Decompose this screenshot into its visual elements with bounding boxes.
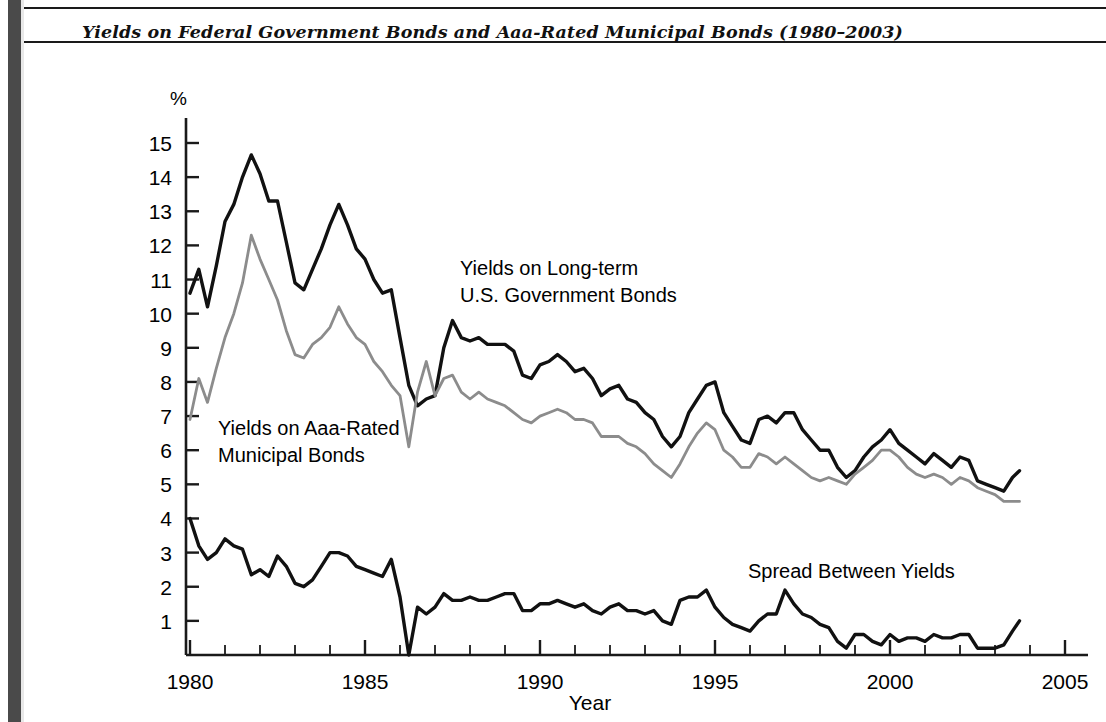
y-tick-label: 14 [149,166,173,189]
series-line-2 [190,519,1020,656]
y-tick-label: 13 [149,200,172,223]
x-axis-label: Year [569,691,611,714]
yields-line-chart: 123456789101112131415 198019851990199520… [0,0,1106,722]
y-tick-label: 5 [160,473,172,496]
spread-annotation-line-0: Spread Between Yields [748,560,955,582]
muni-annotation-line-0: Yields on Aaa-Rated [218,417,400,439]
x-tick-label: 1990 [517,670,564,693]
y-tick-label: 4 [160,507,172,530]
y-tick-label: 8 [160,371,172,394]
x-tick-label: 1980 [167,670,214,693]
y-tick-label: 15 [149,132,172,155]
y-axis-ticks: 123456789101112131415 [149,132,199,633]
y-tick-label: 7 [160,405,172,428]
y-tick-label: 10 [149,303,172,326]
gov-annotation-line-1: U.S. Government Bonds [460,284,677,306]
y-tick-label: 1 [160,610,172,633]
y-tick-label: 2 [160,576,172,599]
muni-annotation-line-1: Municipal Bonds [218,444,365,466]
y-tick-label: 3 [160,542,172,565]
y-tick-label: 12 [149,234,172,257]
x-tick-label: 2005 [1042,670,1089,693]
chart-plot-area: 123456789101112131415 198019851990199520… [0,0,1106,722]
y-tick-label: 6 [160,439,172,462]
y-tick-label: 11 [150,269,172,292]
x-tick-label: 2000 [867,670,914,693]
x-axis-ticks: 198019851990199520002005 [167,640,1089,693]
series-line-0 [190,155,1020,491]
gov-annotation-line-0: Yields on Long-term [460,257,638,279]
y-tick-label: 9 [160,337,172,360]
x-tick-label: 1995 [692,670,739,693]
x-tick-label: 1985 [342,670,389,693]
y-axis-unit-label: % [170,88,187,109]
